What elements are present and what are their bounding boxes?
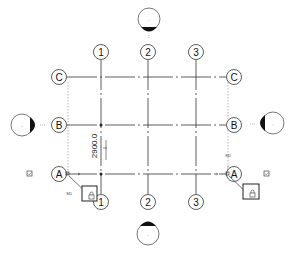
checkbox-icon-right[interactable] [264, 171, 269, 176]
grid-label: B [231, 120, 238, 131]
grid-label: C [230, 72, 237, 83]
dimension-text: 2900.0 [90, 133, 99, 158]
grid-bubble-2-top[interactable]: 2 [141, 45, 156, 60]
grid-label: 3 [193, 47, 199, 58]
lock-box-right[interactable] [243, 184, 259, 199]
grid-intersection-dot [100, 173, 103, 176]
elevation-marker-west[interactable]: - [11, 114, 45, 136]
lock-box-left[interactable] [82, 186, 97, 201]
grid-bubble-2-bottom[interactable]: 2 [141, 195, 156, 210]
elevation-marker-east[interactable]: - [250, 112, 284, 134]
grid-label: 2 [145, 47, 151, 58]
grid-bubble-3-top[interactable]: 3 [189, 45, 204, 60]
grid-label: 3 [193, 197, 199, 208]
grid-bubble-a-left[interactable]: A [52, 167, 67, 182]
grid-bubble-c-left[interactable]: C [52, 70, 67, 85]
elevation-marker-north[interactable]: - [138, 8, 160, 39]
grid-label: 1 [98, 47, 104, 58]
grid-bubble-b-right[interactable]: B [227, 118, 242, 133]
grid-bubble-c-right[interactable]: C [227, 70, 242, 85]
floor-plan-drawing: 1 2 3 1 2 3 C B A C B A [0, 0, 291, 253]
grid-bubble-b-left[interactable]: B [52, 118, 67, 133]
grid-bubble-1-top[interactable]: 1 [94, 45, 109, 60]
grid-label: 2 [145, 197, 151, 208]
grid-label: 1 [98, 197, 104, 208]
checkbox-icon-left[interactable] [27, 171, 32, 176]
grid-label: A [231, 169, 238, 180]
grid-lines-rows[interactable] [67, 77, 226, 174]
grid-bubble-3-bottom[interactable]: 3 [189, 195, 204, 210]
elevation-marker-south[interactable]: - [137, 222, 159, 246]
grid-intersection-dot [100, 124, 103, 127]
dimension-b-a[interactable]: 2900.0 [90, 133, 108, 160]
grid-label: A [56, 169, 63, 180]
sd-tag-right: SD [225, 153, 231, 158]
grid-label: C [55, 72, 62, 83]
sd-tag-left: SD [66, 191, 72, 196]
grid-label: B [56, 120, 63, 131]
